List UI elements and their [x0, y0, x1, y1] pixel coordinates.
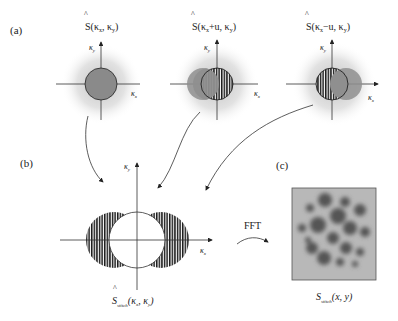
arrow-plot2-to-b	[158, 112, 200, 188]
panel-a-label: (a)	[10, 24, 23, 37]
plot-title: S(κx−u, κy)	[306, 21, 350, 33]
plot-title: S(κx, κy)	[85, 21, 118, 33]
hat-icon: ^	[113, 284, 117, 293]
plot-title: S(κx+u, κy)	[192, 21, 236, 33]
plot-unshifted: S(κx, κy) ^ κy κx	[56, 10, 141, 124]
plot-shifted-plus-u: S(κx+u, κy) ^ κy κx	[170, 10, 261, 126]
kx-label: κx	[200, 246, 207, 256]
arrow-plot1-to-b	[86, 116, 103, 182]
plot-shifted-minus-u: S(κx−u, κy) ^ κy κx	[286, 10, 378, 126]
stitching-diagram: (a) S(κx, κy) ^ κy κx S(κx+u, κy) ^ κy κ…	[0, 0, 398, 321]
panel-c-caption: Sstitch(x, y)	[316, 291, 353, 304]
panel-c-label: (c)	[276, 159, 289, 172]
stitched-image: Sstitch(x, y)	[292, 188, 376, 304]
pupil-circle	[85, 68, 117, 100]
panel-b-caption: Sstitch(κx, κy)	[112, 295, 154, 308]
hat-icon: ^	[84, 10, 88, 19]
ky-label: κy	[124, 162, 131, 172]
hat-icon: ^	[191, 10, 195, 19]
hat-icon: ^	[305, 10, 309, 19]
kx-label: κx	[254, 89, 261, 99]
stitched-spectrum: κy κx Sstitch(κx, κy) ^	[60, 162, 212, 308]
panel-b-label: (b)	[20, 157, 33, 170]
fft-label: FFT	[244, 220, 261, 231]
fft-arrow	[237, 238, 268, 244]
